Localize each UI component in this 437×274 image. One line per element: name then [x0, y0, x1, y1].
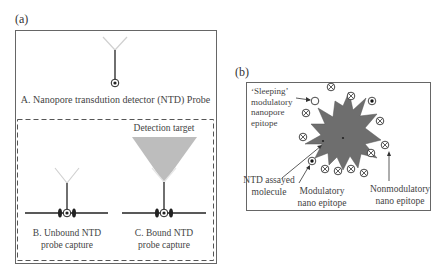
sleeping-label-line3: nanopore [251, 107, 293, 118]
probe-c-caption: C. Bound NTD probe capture [121, 227, 207, 251]
modulatory-label-line2: nano epitope [286, 197, 358, 209]
probe-b-caption-line1: B. Unbound NTD [24, 227, 110, 239]
probe-c-caption-line2: probe capture [121, 239, 207, 251]
nonmodulatory-epitope-icon [381, 141, 389, 149]
nonmodulatory-label-line2: nano epitope [364, 195, 436, 207]
modulatory-label-line1: Modulatory [286, 185, 358, 197]
nonmodulatory-label: Nonmodulatory nano epitope [364, 183, 436, 207]
unbound-probe-icon [25, 168, 108, 218]
nonmodulatory-epitope-icon [367, 149, 375, 157]
nonmodulatory-epitope-icon [299, 133, 307, 141]
bound-probe-icon [122, 137, 206, 218]
sleeping-epitope-icon [311, 97, 319, 105]
modulatory-epitope-icon [368, 97, 376, 105]
probe-c-caption-line1: C. Bound NTD [121, 227, 207, 239]
nonmodulatory-epitope-icon [302, 109, 310, 117]
sleeping-epitope-label: ‘Sleeping’ modulatory nanopore epitope [251, 86, 293, 128]
nonmodulatory-epitope-icon [347, 165, 355, 173]
nonmodulatory-epitope-icon [360, 169, 368, 177]
nonmodulatory-epitope-icon [321, 165, 329, 173]
nonmodulatory-epitope-icon [376, 117, 384, 125]
sleeping-label-line1: ‘Sleeping’ [251, 86, 293, 97]
nonmodulatory-epitope-icon [327, 83, 335, 91]
sleeping-label-line2: modulatory [251, 97, 293, 108]
modulatory-label: Modulatory nano epitope [286, 185, 358, 209]
ntd-probe-icon [103, 37, 127, 87]
detection-target-label: Detection target [124, 122, 204, 134]
nonmodulatory-epitope-icon [334, 167, 342, 175]
probe-b-caption: B. Unbound NTD probe capture [24, 227, 110, 251]
probe-b-caption-line2: probe capture [24, 239, 110, 251]
probe-a-caption: A. Nanopore transdution detector (NTD) P… [15, 94, 216, 106]
nonmodulatory-epitope-icon [347, 92, 355, 100]
detection-target-triangle [132, 137, 197, 183]
sleeping-label-line4: epitope [251, 118, 293, 129]
modulatory-epitope-icon [308, 157, 316, 165]
nonmodulatory-label-line1: Nonmodulatory [364, 183, 436, 195]
panel-b-label: (b) [235, 65, 249, 80]
